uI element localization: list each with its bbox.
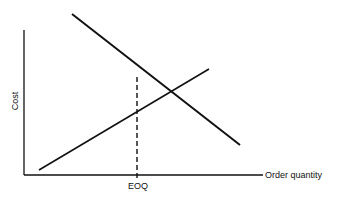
decreasing-cost-line (72, 14, 240, 145)
y-axis-label: Cost (10, 88, 20, 114)
eoq-diagram: Cost EOQ Order quantity (0, 0, 337, 202)
x-axis-label: Order quantity (265, 170, 322, 180)
eoq-label: EOQ (124, 181, 152, 191)
increasing-cost-line (39, 69, 209, 170)
